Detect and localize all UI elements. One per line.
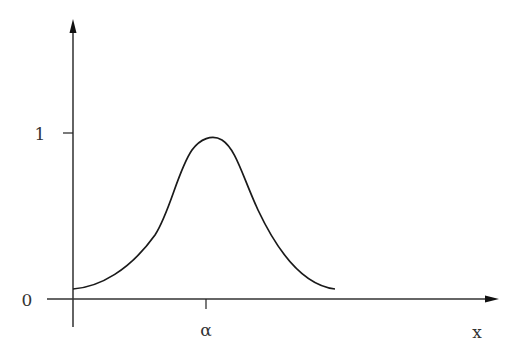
x-axis-arrow-icon: [485, 296, 499, 303]
chart: 1 0 α x: [0, 0, 520, 351]
y-axis-arrow-icon: [70, 19, 77, 33]
x-label-alpha: α: [200, 320, 212, 340]
y-label-one: 1: [35, 124, 46, 144]
y-label-zero: 0: [22, 290, 33, 310]
x-axis-label: x: [472, 322, 482, 342]
bell-curve: [73, 137, 335, 289]
